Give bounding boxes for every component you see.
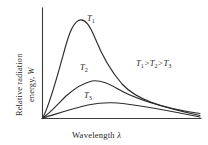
inequality-t2: T (150, 58, 155, 68)
curve-label-t1: T1 (87, 13, 95, 23)
inequality-t3-sub: 3 (168, 62, 171, 69)
blackbody-radiation-figure: Relative radiation energy, W Wavelength … (0, 0, 208, 145)
inequality-t2-sub: 2 (155, 62, 158, 69)
curve-label-t1-sub: 1 (92, 17, 95, 24)
y-axis-label-line2: energy, W (27, 67, 36, 102)
temperature-inequality-annotation: T1>T2>T3 (136, 58, 171, 68)
inequality-t1-sub: 1 (141, 62, 144, 69)
curve-label-t2: T2 (80, 62, 88, 72)
curve-label-t3: T3 (84, 90, 92, 100)
curve-label-t2-sub: 2 (85, 66, 88, 73)
x-axis-label-text: Wavelength (72, 130, 115, 140)
x-axis-label: Wavelength λ (72, 130, 121, 140)
x-axis-label-symbol-lambda: λ (117, 130, 121, 140)
y-axis-label: Relative radiation energy, W (2, 10, 38, 120)
y-axis-label-line1: Relative radiation (15, 54, 24, 116)
y-axis-label-line2-text: energy, (27, 77, 36, 102)
y-axis-label-symbol-w: W (27, 67, 36, 74)
curve-label-t3-sub: 3 (89, 94, 92, 101)
